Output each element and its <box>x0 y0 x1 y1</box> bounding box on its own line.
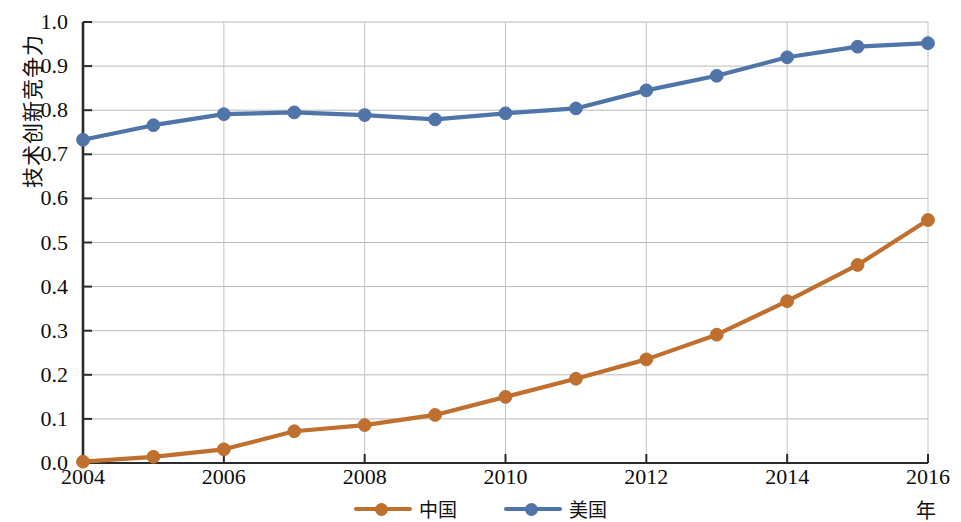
data-point[interactable] <box>781 295 794 308</box>
data-point[interactable] <box>710 328 723 341</box>
data-point[interactable] <box>922 214 935 227</box>
y-tick-label: 0.7 <box>22 143 68 165</box>
x-tick-label: 2014 <box>742 466 832 488</box>
data-point[interactable] <box>288 106 301 119</box>
data-point[interactable] <box>710 69 723 82</box>
y-tick-label: 0.6 <box>22 187 68 209</box>
x-tick-label: 2008 <box>320 466 410 488</box>
y-tick-label: 0.5 <box>22 232 68 254</box>
data-point[interactable] <box>429 409 442 422</box>
y-tick-label: 0.9 <box>22 55 68 77</box>
data-point[interactable] <box>851 259 864 272</box>
legend-marker-icon <box>504 501 562 517</box>
data-point[interactable] <box>640 353 653 366</box>
line-chart: 技术创新竞争力 0.00.10.20.30.40.50.60.70.80.91.… <box>0 0 961 522</box>
data-point[interactable] <box>147 119 160 132</box>
data-point[interactable] <box>499 390 512 403</box>
plot-canvas <box>83 22 928 463</box>
data-point[interactable] <box>217 443 230 456</box>
data-point[interactable] <box>851 40 864 53</box>
x-tick-label: 2006 <box>179 466 269 488</box>
data-point[interactable] <box>640 84 653 97</box>
data-point[interactable] <box>570 102 583 115</box>
y-tick-label: 0.2 <box>22 364 68 386</box>
plot-area <box>83 22 928 463</box>
data-point[interactable] <box>570 372 583 385</box>
data-point[interactable] <box>429 113 442 126</box>
data-point[interactable] <box>147 450 160 463</box>
data-point[interactable] <box>217 108 230 121</box>
y-tick-label: 0.8 <box>22 99 68 121</box>
y-tick-label: 0.1 <box>22 408 68 430</box>
y-tick-label: 0.3 <box>22 320 68 342</box>
x-tick-label: 2012 <box>601 466 691 488</box>
x-tick-label: 2010 <box>461 466 551 488</box>
legend-label: 中国 <box>419 495 458 522</box>
data-point[interactable] <box>358 419 371 432</box>
legend-marker-icon <box>354 501 412 517</box>
data-point[interactable] <box>358 109 371 122</box>
data-point[interactable] <box>77 133 90 146</box>
legend-item[interactable]: 美国 <box>504 495 608 522</box>
data-point[interactable] <box>288 425 301 438</box>
y-axis-tick-labels: 0.00.10.20.30.40.50.60.70.80.91.0 <box>0 0 68 522</box>
y-tick-label: 1.0 <box>22 11 68 33</box>
x-tick-label: 2004 <box>38 466 128 488</box>
x-tick-label: 2016 <box>883 466 961 488</box>
y-tick-label: 0.4 <box>22 276 68 298</box>
data-point[interactable] <box>922 37 935 50</box>
data-point[interactable] <box>499 107 512 120</box>
legend-label: 美国 <box>569 495 608 522</box>
chart-legend: 中国美国 <box>0 495 961 522</box>
legend-item[interactable]: 中国 <box>354 495 458 522</box>
data-point[interactable] <box>781 51 794 64</box>
